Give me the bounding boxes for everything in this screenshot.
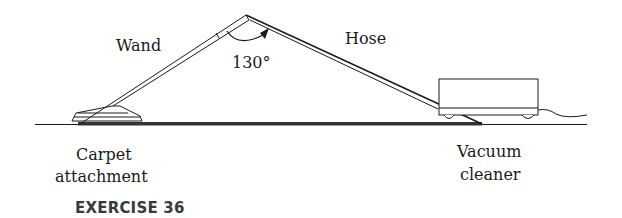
wand-label: Wand [116, 37, 161, 55]
wand [80, 15, 249, 124]
vacuum-cleaner [439, 79, 538, 119]
power-cord [538, 110, 587, 117]
carpet-label-line2: attachment [55, 168, 148, 186]
carpet-attachment [72, 106, 142, 121]
floor-band [78, 122, 482, 126]
vacuum-label-line2: cleaner [460, 166, 521, 184]
vacuum-label-line1: Vacuum [457, 143, 521, 161]
hose-label: Hose [345, 30, 386, 48]
angle-label: 130° [232, 54, 271, 72]
arrow-head-icon [260, 28, 269, 39]
exercise-caption: EXERCISE 36 [75, 199, 185, 217]
angle-arc [227, 31, 263, 41]
carpet-label-line1: Carpet [76, 146, 132, 164]
